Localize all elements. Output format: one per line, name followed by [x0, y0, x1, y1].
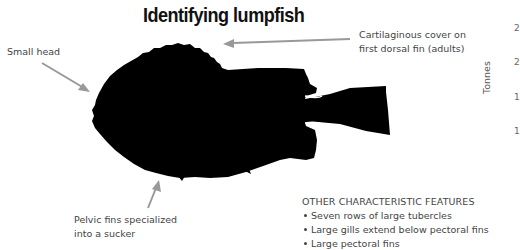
callout-pelvic-line2: into a sucker: [74, 227, 177, 241]
chart-tick-fragment: 1: [514, 92, 520, 102]
fin-notch-lower: [305, 122, 322, 124]
features-list: OTHER CHARACTERISTIC FEATURES Seven rows…: [302, 195, 489, 250]
chart-y-axis-label: Tonnes: [481, 61, 492, 94]
chart-tick-fragment: 2: [514, 57, 520, 67]
callout-dorsal-line2: first dorsal fin (adults): [359, 42, 466, 56]
callout-small-head: Small head: [7, 45, 60, 59]
feature-item: Large pectoral fins: [302, 237, 489, 250]
arrow-small-head: [42, 63, 90, 92]
feature-item: Seven rows of large tubercles: [302, 209, 489, 223]
callout-pelvic-line1: Pelvic fins specialized: [74, 213, 177, 227]
bullet-icon: [304, 242, 307, 245]
feature-item: Large gills extend below pectoral fins: [302, 223, 489, 237]
chart-tick-fragment: 1: [514, 126, 520, 136]
arrow-pelvic-fin: [148, 180, 161, 208]
callout-dorsal-line1: Cartilaginous cover on: [359, 28, 466, 42]
arrow-dorsal-fin: [223, 39, 350, 48]
lumpfish-silhouette: [92, 43, 390, 181]
bullet-icon: [304, 214, 307, 217]
chart-tick-fragment: 2: [514, 23, 520, 33]
callout-dorsal-fin: Cartilaginous cover on first dorsal fin …: [359, 28, 466, 56]
features-heading: OTHER CHARACTERISTIC FEATURES: [302, 195, 489, 209]
bullet-icon: [304, 228, 307, 231]
callout-pelvic-fins: Pelvic fins specialized into a sucker: [74, 213, 177, 241]
